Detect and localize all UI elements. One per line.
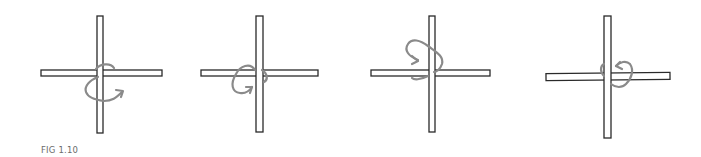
vertical-stick xyxy=(604,16,611,138)
panel-step-4 xyxy=(546,16,670,138)
arrow-head-icon xyxy=(412,56,418,64)
lashing-diagram xyxy=(0,0,701,157)
panel-step-3 xyxy=(371,16,490,132)
figure-caption: FIG 1.10 xyxy=(41,145,78,155)
vertical-stick xyxy=(429,16,435,132)
vertical-stick xyxy=(97,16,103,133)
panel-step-2 xyxy=(201,16,318,132)
vertical-stick xyxy=(256,16,263,132)
panel-step-1 xyxy=(41,16,162,133)
